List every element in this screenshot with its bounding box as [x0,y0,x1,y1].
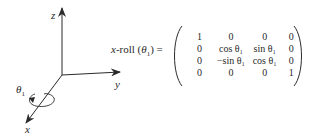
matrix-cell: cos θ₁ [213,43,249,55]
rotation-matrix: 1 0 0 0 0 cos θ₁ sin θ₁ 0 0 −sin θ₁ cos … [170,25,302,87]
matrix-cell: 1 [281,67,302,79]
matrix-cell: sin θ₁ [249,43,281,55]
matrix-cell: 0 [281,43,302,55]
matrix-row: 1 0 0 0 [186,31,302,43]
y-axis [62,72,120,75]
z-axis-label: z [51,10,55,21]
matrix-cell: 0 [213,31,249,43]
matrix-cell: 0 [249,31,281,43]
matrix-table: 1 0 0 0 0 cos θ₁ sin θ₁ 0 0 −sin θ₁ cos … [186,31,302,79]
equation-lhs: x-roll (θ1) = [111,43,163,58]
matrix-cell: 0 [249,67,281,79]
theta-label: θ1 [16,84,25,98]
matrix-row: 0 cos θ₁ sin θ₁ 0 [186,43,302,55]
matrix-cell: 0 [186,43,213,55]
matrix-cell: −sin θ₁ [213,55,249,67]
matrix-row: 0 0 0 1 [186,67,302,79]
matrix-cell: 0 [186,67,213,79]
matrix-cell: cos θ₁ [249,55,281,67]
y-axis-label: y [115,79,120,90]
matrix-cell: 1 [186,31,213,43]
matrix-cell: 0 [281,31,302,43]
x-axis-label: x [25,124,30,135]
matrix-cell: 0 [213,67,249,79]
matrix-row: 0 −sin θ₁ cos θ₁ 0 [186,55,302,67]
matrix-cell: 0 [186,55,213,67]
matrix-cell: 0 [281,55,302,67]
